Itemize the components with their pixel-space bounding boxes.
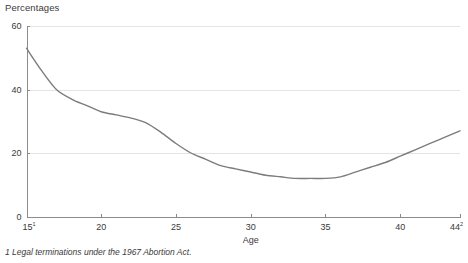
chart-footnote: 1 Legal terminations under the 1967 Abor… bbox=[5, 247, 192, 257]
x-tick-label-30: 30 bbox=[246, 222, 256, 232]
x-tick-label-40: 40 bbox=[395, 222, 405, 232]
data-series bbox=[27, 48, 461, 178]
x-tick-label-44: 442 bbox=[450, 221, 463, 232]
plot-area: 0204060 1512025303540442 Age bbox=[0, 0, 468, 263]
y-tick-label-60: 60 bbox=[11, 21, 21, 31]
x-axis bbox=[28, 214, 461, 218]
y-axis-tick-labels: 0204060 bbox=[11, 21, 21, 222]
x-tick-label-15: 151 bbox=[22, 221, 35, 232]
x-tick-label-25: 25 bbox=[171, 222, 181, 232]
gridlines bbox=[27, 27, 461, 218]
x-tick-label-35: 35 bbox=[320, 222, 330, 232]
y-tick-label-20: 20 bbox=[11, 148, 21, 158]
x-axis-title: Age bbox=[243, 235, 259, 245]
percentages-line-chart: Percentages 0204060 1512025303540442 Age… bbox=[0, 0, 468, 263]
y-tick-label-0: 0 bbox=[16, 212, 21, 222]
y-tick-label-40: 40 bbox=[11, 85, 21, 95]
x-axis-tick-labels: 1512025303540442 bbox=[22, 221, 463, 232]
x-tick-superscript-44: 2 bbox=[460, 221, 463, 227]
series-line-0 bbox=[27, 48, 461, 178]
x-tick-label-20: 20 bbox=[96, 222, 106, 232]
x-tick-superscript-15: 1 bbox=[32, 221, 35, 227]
